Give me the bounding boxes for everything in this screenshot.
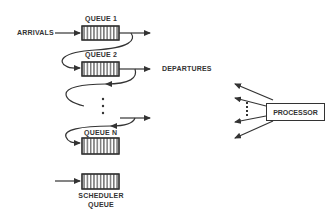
queue-2-label: QUEUE 2 <box>85 51 117 58</box>
processor-arrow-4 <box>235 121 273 138</box>
departures-label: DEPARTURES <box>162 65 212 72</box>
scheduler-queue-box <box>82 174 119 189</box>
processor-label: PROCESSOR <box>273 109 318 116</box>
scheduler-label-line2: QUEUE <box>76 201 126 208</box>
queue-n-box <box>82 138 119 154</box>
queue-n-label: QUEUE N <box>84 129 117 136</box>
processor-ellipsis <box>246 102 248 116</box>
processor-arrow-3 <box>235 116 266 122</box>
queue-n-loop <box>111 118 135 126</box>
arrivals-label: ARRIVALS <box>17 29 54 36</box>
processor-box: PROCESSOR <box>266 103 325 121</box>
queue-continuation-curve <box>66 84 106 106</box>
scheduler-label-line1: SCHEDULER <box>76 192 126 199</box>
queue-2-box <box>82 62 119 76</box>
queue-1-label: QUEUE 1 <box>85 15 117 22</box>
queue-ellipsis <box>102 98 104 114</box>
processor-arrow-2 <box>235 98 266 106</box>
processor-arrow-1 <box>235 84 273 100</box>
queue-1-box <box>82 26 119 40</box>
